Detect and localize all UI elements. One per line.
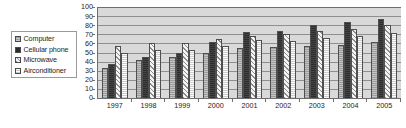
y-axis-tick-mark	[92, 25, 95, 26]
x-axis-tick-label: 1998	[132, 101, 166, 115]
bar-group	[233, 7, 267, 98]
legend-swatch-icon	[15, 47, 21, 53]
legend-item-label: Cellular phone	[24, 45, 69, 56]
bar-group	[132, 7, 166, 98]
legend-item-label: Airconditioner	[24, 66, 67, 77]
legend-item-label: Microwave	[24, 55, 57, 66]
y-axis-tick-mark	[92, 43, 95, 44]
bar-group	[199, 7, 233, 98]
x-axis-tick-label: 1999	[165, 101, 199, 115]
legend-item[interactable]: Computer	[15, 34, 74, 45]
bar[interactable]	[391, 33, 397, 98]
bar[interactable]	[290, 41, 296, 98]
y-axis-tick-mark	[92, 62, 95, 63]
chart-legend: ComputerCellular phoneMicrowaveAircondit…	[11, 31, 77, 78]
bar-group	[334, 7, 368, 98]
legend-item[interactable]: Airconditioner	[15, 66, 74, 77]
x-axis-tick-label: 2002	[266, 101, 300, 115]
legend-swatch-icon	[15, 36, 21, 42]
bar[interactable]	[256, 40, 262, 98]
bar[interactable]	[155, 50, 161, 98]
bar[interactable]	[121, 53, 127, 99]
bar[interactable]	[222, 46, 228, 98]
bar[interactable]	[323, 38, 329, 98]
x-axis: 199719981999200020012002200320042005	[98, 101, 401, 115]
x-axis-tick-label: 2005	[367, 101, 401, 115]
bar-group	[367, 7, 401, 98]
x-axis-tick-label: 2001	[233, 101, 267, 115]
x-axis-tick-label: 2003	[300, 101, 334, 115]
bar-group	[300, 7, 334, 98]
legend-swatch-icon	[15, 57, 21, 63]
bar[interactable]	[189, 50, 195, 98]
x-axis-tick-label: 2004	[334, 101, 368, 115]
bars-layer	[98, 7, 401, 98]
x-axis-tick-label: 1997	[98, 101, 132, 115]
y-axis-tick-mark	[92, 7, 95, 8]
legend-item-label: Computer	[24, 34, 55, 45]
bar-group	[266, 7, 300, 98]
legend-swatch-icon	[15, 68, 21, 74]
y-axis: 0102030405060708090100	[74, 0, 95, 105]
x-axis-tick-label: 2000	[199, 101, 233, 115]
bar-chart: ComputerCellular phoneMicrowaveAircondit…	[0, 0, 406, 128]
legend-item[interactable]: Cellular phone	[15, 45, 74, 56]
y-axis-tick-mark	[92, 71, 95, 72]
y-axis-tick-mark	[92, 16, 95, 17]
legend-item[interactable]: Microwave	[15, 55, 74, 66]
plot-area	[97, 7, 401, 99]
y-axis-tick-mark	[92, 80, 95, 81]
y-axis-tick-mark	[92, 53, 95, 54]
y-axis-tick-mark	[92, 89, 95, 90]
y-axis-tick-mark	[92, 98, 95, 99]
bar[interactable]	[357, 36, 363, 98]
bar-group	[165, 7, 199, 98]
bar-group	[98, 7, 132, 98]
y-axis-tick-mark	[92, 34, 95, 35]
